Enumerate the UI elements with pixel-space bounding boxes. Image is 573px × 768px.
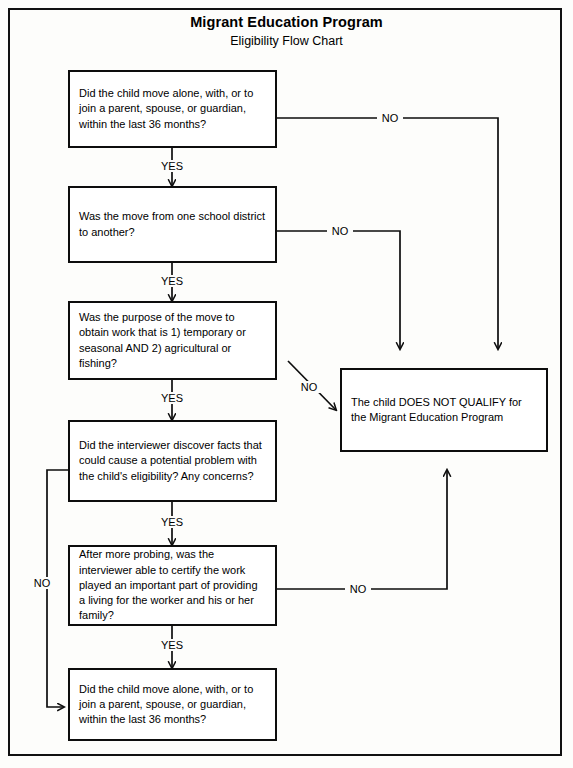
- edge-label-no-1: NO: [377, 112, 403, 124]
- decision-box-certify-work-living-text: After more probing, was the interviewer …: [79, 547, 266, 623]
- page-title: Migrant Education Program: [0, 14, 573, 30]
- edge-label-yes-5: YES: [155, 639, 189, 651]
- decision-box-interviewer-concerns-text: Did the interviewer discover facts that …: [79, 438, 266, 484]
- decision-box-move-alone-or-join-repeat: Did the child move alone, with, or to jo…: [68, 668, 277, 741]
- edge-label-yes-3: YES: [155, 392, 189, 404]
- flowchart-page: Migrant Education Program Eligibility Fl…: [0, 0, 573, 768]
- decision-box-move-alone-or-join: Did the child move alone, with, or to jo…: [68, 70, 277, 148]
- outcome-box-does-not-qualify-text: The child DOES NOT QUALIFY for the Migra…: [351, 395, 537, 425]
- decision-box-move-alone-or-join-repeat-text: Did the child move alone, with, or to jo…: [79, 682, 266, 728]
- decision-box-move-between-districts-text: Was the move from one school district to…: [79, 209, 266, 239]
- decision-box-move-between-districts: Was the move from one school district to…: [68, 186, 277, 263]
- page-subtitle: Eligibility Flow Chart: [0, 34, 573, 48]
- edge-label-yes-2: YES: [155, 275, 189, 287]
- decision-box-purpose-of-move-text: Was the purpose of the move to obtain wo…: [79, 310, 266, 371]
- edge-label-yes-1: YES: [155, 160, 189, 172]
- edge-label-no-2: NO: [327, 225, 353, 237]
- edge-label-no-5: NO: [345, 583, 371, 595]
- edge-label-yes-4: YES: [155, 516, 189, 528]
- decision-box-move-alone-or-join-text: Did the child move alone, with, or to jo…: [79, 86, 266, 132]
- edge-label-no-3: NO: [296, 381, 322, 393]
- decision-box-certify-work-living: After more probing, was the interviewer …: [68, 545, 277, 626]
- outcome-box-does-not-qualify: The child DOES NOT QUALIFY for the Migra…: [340, 368, 548, 452]
- decision-box-purpose-of-move: Was the purpose of the move to obtain wo…: [68, 301, 277, 380]
- decision-box-interviewer-concerns: Did the interviewer discover facts that …: [68, 420, 277, 502]
- edge-label-no-4: NO: [29, 577, 55, 589]
